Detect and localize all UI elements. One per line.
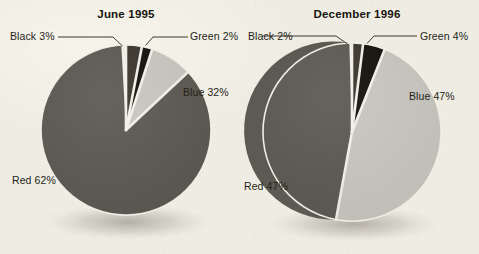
label-blue-june-1995: Blue 32% [183,86,229,98]
label-red-june-1995: Red 62% [12,174,56,186]
leader-line-green [146,37,189,46]
label-green-december-1996: Green 4% [420,30,468,42]
label-red-december-1996: Red 47% [244,180,288,192]
pie-shading [41,45,211,215]
pie-shading [263,43,441,221]
label-black-december-1996: Black 2% [248,30,293,42]
leader-line-green [367,36,417,44]
label-blue-december-1996: Blue 47% [409,90,455,102]
label-green-june-1995: Green 2% [190,30,238,42]
label-black-june-1995: Black 3% [10,30,55,42]
leader-line-black [58,37,123,46]
